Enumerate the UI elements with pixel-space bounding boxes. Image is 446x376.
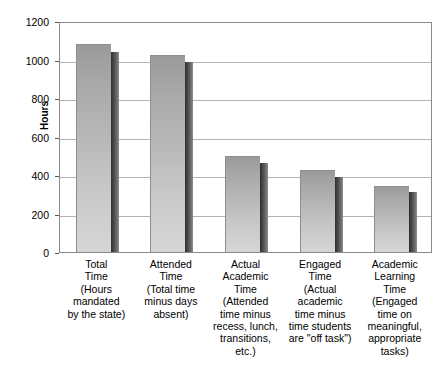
x-label-detail-line: time on xyxy=(357,308,432,320)
x-label-title-line: Attended xyxy=(134,258,209,270)
bar-shadow xyxy=(260,163,268,252)
x-label-detail-line: appropriate xyxy=(357,332,432,344)
x-axis-label: ActualAcademicTime(Attendedtime minusrec… xyxy=(208,258,283,357)
y-tick-mark xyxy=(55,253,59,254)
x-axis-label: AcademicLearningTime(Engagedtime onmeani… xyxy=(357,258,432,357)
y-tick-label: 400 xyxy=(5,170,49,182)
x-label-detail-line: (Attended xyxy=(208,295,283,307)
x-label-detail-line: academic xyxy=(283,295,358,307)
x-label-title-line: Actual xyxy=(208,258,283,270)
x-axis-label: AttendedTime(Total timeminus daysabsent) xyxy=(134,258,209,320)
x-label-title-line: Time xyxy=(134,270,209,282)
bar-group xyxy=(225,21,268,252)
x-label-detail-line: mandated xyxy=(59,295,134,307)
y-tick-label: 800 xyxy=(5,93,49,105)
x-label-detail-line: transitions, xyxy=(208,332,283,344)
x-label-detail-line: (Engaged xyxy=(357,295,432,307)
x-label-detail-line: time minus xyxy=(283,308,358,320)
x-label-detail-line: tasks) xyxy=(357,345,432,357)
bar-group xyxy=(300,21,343,252)
bar-front xyxy=(374,186,409,252)
x-label-title-line: Time xyxy=(283,270,358,282)
x-label-title-line: Learning xyxy=(357,270,432,282)
x-axis-label: EngagedTime(Actualacademictime minustime… xyxy=(283,258,358,345)
x-label-title-line: Academic xyxy=(208,270,283,282)
bar-group xyxy=(150,21,193,252)
y-tick-label: 1200 xyxy=(5,16,49,28)
x-label-detail-line: minus days xyxy=(134,295,209,307)
x-label-detail-line: time minus xyxy=(208,308,283,320)
x-label-title-line: Engaged xyxy=(283,258,358,270)
bar-chart: Hours 020040060080010001200 TotalTime(Ho… xyxy=(0,0,446,376)
x-axis-label: TotalTime(Hoursmandatedby the state) xyxy=(59,258,134,320)
bar-front xyxy=(300,170,335,252)
bar-front xyxy=(150,55,185,252)
y-tick-label: 600 xyxy=(5,132,49,144)
bar-group xyxy=(374,21,417,252)
bar-shadow xyxy=(335,177,343,252)
x-label-title-line: Time xyxy=(357,283,432,295)
x-label-detail-line: are "off task") xyxy=(283,332,358,344)
x-label-title-line: Total xyxy=(59,258,134,270)
bar-shadow xyxy=(111,52,119,252)
y-axis: 020040060080010001200 xyxy=(0,0,59,376)
x-label-title-line: Time xyxy=(59,270,134,282)
x-label-title-line: Time xyxy=(208,283,283,295)
x-label-detail-line: time students xyxy=(283,320,358,332)
x-label-detail-line: recess, lunch, xyxy=(208,320,283,332)
bar-front xyxy=(225,156,260,252)
x-label-detail-line: meaningful, xyxy=(357,320,432,332)
x-axis-labels: TotalTime(Hoursmandatedby the state)Atte… xyxy=(59,258,432,376)
x-label-detail-line: etc.) xyxy=(208,345,283,357)
x-label-detail-line: (Total time xyxy=(134,283,209,295)
bar-shadow xyxy=(409,192,417,252)
x-label-detail-line: absent) xyxy=(134,308,209,320)
y-tick-label: 0 xyxy=(5,247,49,259)
plot-area xyxy=(59,22,432,253)
bar-shadow xyxy=(185,62,193,252)
y-tick-label: 1000 xyxy=(5,55,49,67)
x-label-detail-line: (Actual xyxy=(283,283,358,295)
x-label-detail-line: by the state) xyxy=(59,308,134,320)
x-label-detail-line: (Hours xyxy=(59,283,134,295)
y-tick-label: 200 xyxy=(5,209,49,221)
bar-group xyxy=(76,21,119,252)
bar-front xyxy=(76,44,111,252)
x-label-title-line: Academic xyxy=(357,258,432,270)
